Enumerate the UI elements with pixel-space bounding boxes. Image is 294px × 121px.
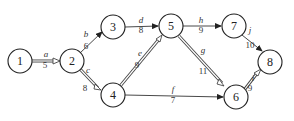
edge-j-name: j (248, 25, 252, 35)
node-5: 5 (159, 14, 183, 38)
edge-c: c 8 (80, 65, 101, 93)
edge-f-name: f (172, 84, 176, 94)
edge-e-name: e (138, 48, 142, 58)
network-diagram: b 6 d 8 f 7 h 9 j 10 a 5 c 8 (0, 0, 294, 121)
node-8: 8 (258, 50, 282, 74)
edge-h: h 9 (183, 15, 221, 35)
edge-b: b 6 (79, 29, 102, 54)
node-8-label: 8 (267, 55, 273, 69)
node-7: 7 (222, 14, 246, 38)
node-6: 6 (224, 85, 248, 109)
edge-b-name: b (84, 29, 89, 39)
edge-b-weight: 6 (84, 41, 89, 51)
edge-g-name: g (201, 45, 206, 55)
edge-e: e 9 (121, 35, 162, 85)
edge-c-name: c (86, 65, 90, 75)
edge-e-weight: 9 (135, 60, 140, 70)
edge-a: a 5 (32, 49, 60, 70)
node-5-label: 5 (168, 19, 174, 33)
edge-i: i 9 (245, 69, 261, 93)
edge-j-weight: 10 (246, 40, 256, 50)
node-3: 3 (101, 15, 125, 39)
node-3-label: 3 (110, 20, 116, 34)
edge-d-name: d (139, 15, 144, 25)
edge-h-weight: 9 (199, 25, 204, 35)
node-1-label: 1 (17, 54, 23, 68)
node-2-label: 2 (69, 54, 75, 68)
edge-d-weight: 8 (139, 25, 144, 35)
edge-d: d 8 (125, 15, 158, 35)
edge-a-weight: 5 (43, 60, 48, 70)
node-4: 4 (101, 83, 125, 107)
edge-f-weight: 7 (171, 95, 176, 105)
node-6-label: 6 (233, 90, 239, 104)
node-4-label: 4 (110, 88, 116, 102)
node-1: 1 (8, 49, 32, 73)
edge-g-weight: 11 (199, 66, 208, 76)
node-7-label: 7 (231, 19, 237, 33)
edge-c-weight: 8 (83, 83, 88, 93)
edge-i-weight: 9 (248, 83, 253, 93)
node-2: 2 (60, 49, 84, 73)
edge-f: f 7 (125, 84, 223, 105)
edge-a-name: a (44, 49, 49, 59)
edge-g: g 11 (179, 36, 224, 86)
edge-h-name: h (199, 15, 204, 25)
